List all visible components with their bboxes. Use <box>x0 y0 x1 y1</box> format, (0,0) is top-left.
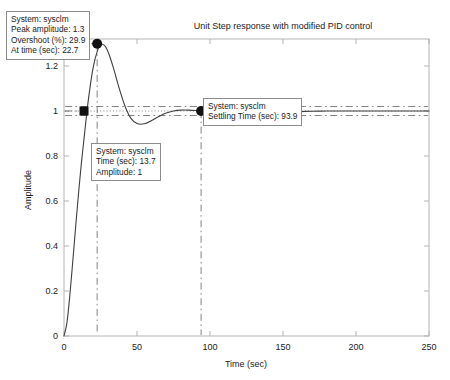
annotation-rise-line-1: Time (sec): 13.7 <box>96 156 156 166</box>
y-tick-label: 1 <box>53 106 58 116</box>
rise-marker[interactable] <box>80 107 89 116</box>
y-tick-label: 0 <box>53 331 58 341</box>
y-tick-label: 1.2 <box>45 61 58 71</box>
x-tick-label: 50 <box>132 342 142 352</box>
peak-marker[interactable] <box>92 39 102 49</box>
annotation-peak-line-3: At time (sec): 22.7 <box>11 45 85 55</box>
y-tick-label: 0.6 <box>45 196 58 206</box>
annotation-peak-amplitude[interactable]: System: sysclm Peak amplitude: 1.3 Overs… <box>6 11 90 60</box>
x-axis-ticks: 050100150200250 <box>61 39 436 352</box>
y-tick-label: 0.4 <box>45 241 58 251</box>
x-tick-label: 100 <box>202 342 217 352</box>
annotation-peak-line-0: System: sysclm <box>11 14 85 24</box>
data-markers <box>80 39 207 116</box>
response-curve <box>64 44 429 336</box>
x-tick-label: 0 <box>61 342 66 352</box>
axes-box <box>64 39 429 336</box>
x-tick-label: 200 <box>348 342 363 352</box>
annotation-settling-line-1: Settling Time (sec): 93.9 <box>208 111 297 121</box>
annotation-rise-line-0: System: sysclm <box>96 146 156 156</box>
x-tick-label: 150 <box>275 342 290 352</box>
figure-container: Unit Step response with modified PID con… <box>0 0 450 380</box>
y-tick-label: 0.8 <box>45 151 58 161</box>
annotation-rise-time[interactable]: System: sysclm Time (sec): 13.7 Amplitud… <box>91 143 161 181</box>
y-axis-label: Amplitude <box>23 170 33 210</box>
x-axis-label: Time (sec) <box>225 359 267 369</box>
annotation-peak-line-1: Peak amplitude: 1.3 <box>11 24 85 34</box>
annotation-rise-line-2: Amplitude: 1 <box>96 167 156 177</box>
annotation-settling-line-0: System: sysclm <box>208 101 297 111</box>
annotation-peak-line-2: Overshoot (%): 29.9 <box>11 35 85 45</box>
plot-title: Unit Step response with modified PID con… <box>194 21 373 31</box>
x-tick-label: 250 <box>421 342 436 352</box>
y-tick-label: 0.2 <box>45 286 58 296</box>
annotation-settling-time[interactable]: System: sysclm Settling Time (sec): 93.9 <box>203 98 302 126</box>
